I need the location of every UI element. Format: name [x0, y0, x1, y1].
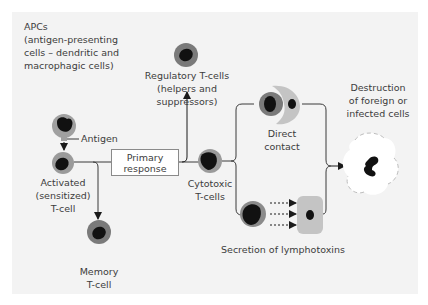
apcs-desc-3: macrophagic cells)	[24, 60, 114, 72]
lymphotoxin-secretion-icon	[240, 196, 323, 234]
destruction-label-1: Destruction	[338, 82, 418, 94]
cytotoxic-t-cell-icon	[198, 149, 222, 173]
memory-label-2: T-cell	[72, 279, 126, 291]
direct-contact-label-2: contact	[257, 141, 307, 153]
activated-label-1: Activated	[30, 177, 96, 189]
activated-t-cell-icon	[52, 152, 74, 174]
regulatory-label-1: Regulatory T-cells	[140, 70, 234, 82]
direct-contact-cells-icon	[259, 86, 300, 125]
memory-label-1: Memory	[72, 266, 126, 278]
bracket-upper-left	[222, 104, 254, 161]
apcs-desc-2: cells – dendritic and	[24, 47, 119, 59]
apcs-desc-1: (antigen-presenting	[24, 34, 118, 46]
regulatory-label-3: suppressors)	[140, 96, 234, 108]
activated-label-3: T-cell	[30, 203, 96, 215]
memory-t-cell-icon	[87, 220, 111, 244]
primary-response-line-1: Primary	[112, 152, 178, 163]
secretion-label: Secretion of lymphotoxins	[221, 244, 345, 256]
regulatory-t-cell-icon	[174, 43, 198, 67]
apc-cell-icon	[52, 114, 76, 141]
direct-contact-label-1: Direct	[257, 128, 307, 140]
primary-response-box: Primary response	[111, 149, 179, 176]
antigen-label: Antigen	[81, 133, 118, 145]
destruction-label-3: infected cells	[338, 108, 418, 120]
destruction-label-2: of foreign or	[338, 95, 418, 107]
regulatory-label-2: (helpers and	[140, 83, 234, 95]
cytotoxic-label-1: Cytotoxic	[182, 178, 238, 190]
bracket-lower-right	[323, 166, 331, 214]
destroyed-cell-icon	[343, 133, 398, 195]
apcs-title: APCs	[24, 21, 48, 33]
activated-label-2: (sensitized)	[30, 190, 96, 202]
cytotoxic-label-2: T-cells	[182, 191, 238, 203]
primary-response-line-2: response	[112, 163, 178, 174]
